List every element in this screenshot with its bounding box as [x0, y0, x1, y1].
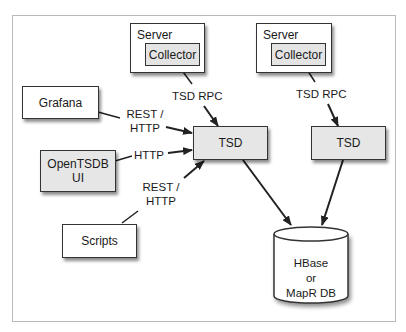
database-label-line2: or — [273, 271, 349, 286]
database-label-line3: MapR DB — [273, 286, 349, 301]
database-label-line1: HBase — [273, 256, 349, 271]
database-label: HBase or MapR DB — [273, 256, 349, 301]
